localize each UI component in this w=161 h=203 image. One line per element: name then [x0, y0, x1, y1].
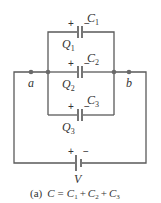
q3-label: Q3 — [62, 120, 75, 136]
c2-plus-sign: + — [68, 58, 74, 69]
battery-plus-sign: + — [68, 146, 74, 157]
c2-label: C2 — [87, 51, 99, 67]
junction-right-dot — [112, 70, 117, 75]
c3-label: C3 — [87, 93, 99, 109]
parallel-branch-wires — [48, 32, 114, 115]
c3-plus-sign: + — [68, 101, 74, 112]
q1-label: Q1 — [62, 37, 75, 53]
battery: + − V — [68, 146, 89, 186]
q2-label: Q2 — [62, 77, 75, 93]
node-a-label: a — [28, 76, 34, 90]
node-a-dot — [29, 70, 34, 75]
battery-minus-sign: − — [83, 146, 89, 157]
caption: (a)C=C1+C2+C3 — [30, 187, 120, 201]
circuit-diagram: + − C1 Q1 + − C2 Q2 + − C3 Q3 a b + − V … — [0, 0, 161, 203]
battery-label: V — [74, 172, 83, 186]
node-b-label: b — [126, 76, 132, 90]
node-b-dot — [127, 70, 132, 75]
junction-left-dot — [46, 70, 51, 75]
c1-label: C1 — [87, 11, 99, 27]
c1-plus-sign: + — [68, 18, 74, 29]
